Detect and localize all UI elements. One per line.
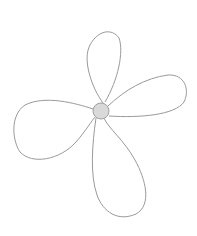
petal-top xyxy=(87,32,121,103)
petal-bottom xyxy=(92,118,145,217)
flower-illustration xyxy=(0,0,197,236)
flower-drawing xyxy=(0,0,197,236)
petals-group xyxy=(14,32,187,217)
petal-right xyxy=(108,75,186,117)
flower-center xyxy=(93,103,109,119)
petal-left xyxy=(14,100,96,159)
